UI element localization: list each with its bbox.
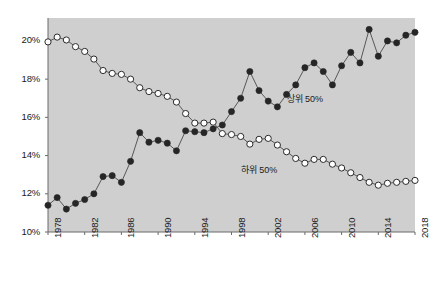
data-point-marker [54, 34, 60, 40]
data-point-marker [375, 182, 381, 188]
data-point-marker [247, 68, 253, 74]
data-point-marker [109, 70, 115, 76]
data-point-marker [201, 130, 207, 136]
data-point-marker [118, 71, 124, 77]
data-point-marker [384, 180, 390, 186]
data-point-marker [183, 110, 189, 116]
data-point-marker [247, 141, 253, 147]
data-point-marker [274, 104, 280, 110]
data-point-marker [384, 38, 390, 44]
x-tick-label: 1990 [162, 218, 173, 238]
data-point-marker [228, 131, 234, 137]
data-point-marker [54, 195, 60, 201]
x-tick-label: 1998 [236, 218, 247, 238]
data-point-marker [311, 156, 317, 162]
data-point-marker [45, 39, 51, 45]
chart-container: 10%12%14%16%18%20% 197819821986199019941… [0, 0, 431, 287]
plot-background [48, 18, 415, 232]
data-point-marker [127, 76, 133, 82]
series-label-1: 상위 50% [287, 92, 324, 105]
data-point-marker [339, 165, 345, 171]
data-point-marker [256, 136, 262, 142]
data-point-marker [137, 85, 143, 91]
data-point-marker [265, 135, 271, 141]
data-point-marker [283, 149, 289, 155]
series-label-2: 하위 50% [241, 163, 278, 176]
data-point-marker [45, 202, 51, 208]
data-point-marker [256, 88, 262, 94]
data-point-marker [403, 32, 409, 38]
data-point-marker [394, 40, 400, 46]
data-point-marker [63, 206, 69, 212]
x-tick-label: 2018 [419, 218, 430, 238]
x-tick-label: 2006 [309, 218, 320, 238]
data-point-marker [375, 53, 381, 59]
x-tick-label: 1986 [125, 218, 136, 238]
y-tick-label: 18% [0, 73, 40, 84]
data-point-marker [201, 120, 207, 126]
data-point-marker [329, 161, 335, 167]
x-tick-label: 2014 [382, 218, 393, 238]
data-point-marker [173, 148, 179, 154]
data-point-marker [302, 65, 308, 71]
data-point-marker [357, 174, 363, 180]
y-tick-label: 16% [0, 111, 40, 122]
data-point-marker [293, 155, 299, 161]
data-point-marker [412, 177, 418, 183]
data-point-marker [219, 122, 225, 128]
data-point-marker [183, 128, 189, 134]
data-point-marker [164, 93, 170, 99]
data-point-marker [348, 49, 354, 55]
data-point-marker [137, 130, 143, 136]
y-tick-label: 14% [0, 149, 40, 160]
data-point-marker [146, 88, 152, 94]
data-point-marker [82, 196, 88, 202]
data-point-marker [412, 29, 418, 35]
data-point-marker [238, 95, 244, 101]
line-chart-svg [0, 0, 431, 287]
data-point-marker [339, 63, 345, 69]
x-tick-label: 2010 [346, 218, 357, 238]
data-point-marker [91, 56, 97, 62]
data-point-marker [72, 200, 78, 206]
data-point-marker [274, 142, 280, 148]
x-tick-label: 1982 [89, 218, 100, 238]
data-point-marker [403, 178, 409, 184]
data-point-marker [293, 82, 299, 88]
data-point-marker [394, 179, 400, 185]
data-point-marker [173, 99, 179, 105]
data-point-marker [91, 191, 97, 197]
data-point-marker [219, 131, 225, 137]
data-point-marker [348, 170, 354, 176]
data-point-marker [109, 173, 115, 179]
data-point-marker [192, 120, 198, 126]
data-point-marker [210, 126, 216, 132]
data-point-marker [320, 68, 326, 74]
y-tick-label: 12% [0, 187, 40, 198]
data-point-marker [155, 90, 161, 96]
y-tick-label: 20% [0, 34, 40, 45]
data-point-marker [118, 179, 124, 185]
data-point-marker [366, 179, 372, 185]
data-point-marker [127, 158, 133, 164]
data-point-marker [146, 139, 152, 145]
data-point-marker [192, 129, 198, 135]
x-tick-label: 2002 [272, 218, 283, 238]
data-point-marker [311, 60, 317, 66]
data-point-marker [302, 160, 308, 166]
data-point-marker [72, 44, 78, 50]
data-point-marker [265, 98, 271, 104]
data-point-marker [329, 82, 335, 88]
data-point-marker [164, 140, 170, 146]
data-point-marker [100, 67, 106, 73]
data-point-marker [82, 48, 88, 54]
data-point-marker [155, 137, 161, 143]
y-tick-label: 10% [0, 226, 40, 237]
x-tick-label: 1978 [52, 218, 63, 238]
data-point-marker [238, 133, 244, 139]
data-point-marker [366, 26, 372, 32]
x-tick-label: 1994 [199, 218, 210, 238]
data-point-marker [100, 173, 106, 179]
data-point-marker [320, 156, 326, 162]
data-point-marker [63, 37, 69, 43]
